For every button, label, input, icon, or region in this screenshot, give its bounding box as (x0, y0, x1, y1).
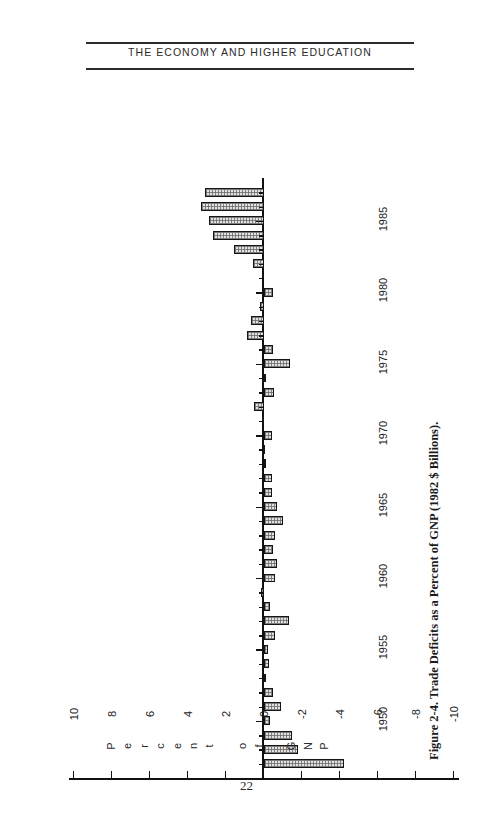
year-tick-1968 (259, 464, 264, 465)
axis-title-letter-1: e (121, 739, 133, 753)
value-label--2: -2 (296, 700, 308, 728)
value-label--10: -10 (448, 700, 460, 728)
year-label-1980: 1980 (377, 270, 389, 310)
bar-1956 (264, 631, 275, 640)
chart-canvas (0, 178, 264, 778)
year-tick-1961 (259, 564, 264, 565)
bar-1947 (264, 759, 344, 768)
value-tick-2 (301, 771, 302, 778)
year-tick-1964 (259, 521, 264, 522)
bar-1976 (264, 345, 273, 354)
axis-title-letter-6: t (203, 739, 215, 753)
value-tick-4 (339, 771, 340, 778)
year-tick-1958 (259, 607, 264, 608)
bar-1984 (213, 231, 264, 240)
year-tick-1971 (259, 421, 264, 422)
year-tick-1970 (256, 435, 264, 436)
bar-1974 (264, 374, 266, 383)
bar-1962 (264, 545, 274, 554)
year-tick-1982 (259, 264, 264, 265)
value-tick--2 (225, 771, 226, 778)
year-label-1960: 1960 (377, 556, 389, 596)
year-tick-1966 (259, 492, 264, 493)
year-tick-1975 (256, 364, 264, 365)
year-tick-1953 (259, 678, 264, 679)
axis-title-letter-12: N (302, 739, 314, 753)
running-header: THE ECONOMY AND HIGHER EDUCATION (86, 42, 414, 70)
value-label-10: 10 (68, 700, 80, 728)
bar-1965 (264, 502, 277, 511)
year-tick-1956 (259, 635, 264, 636)
year-tick-1954 (259, 664, 264, 665)
year-tick-1963 (259, 535, 264, 536)
value-tick--10 (73, 771, 74, 778)
bar-1952 (264, 688, 274, 697)
year-tick-1985 (256, 221, 264, 222)
page-number: 22 (0, 778, 493, 794)
bar-1975 (264, 359, 290, 368)
bar-1966 (264, 488, 272, 497)
bar-1961 (264, 559, 277, 568)
axis-title-letter-0: P (105, 739, 117, 753)
year-tick-1976 (259, 349, 264, 350)
value-tick-0 (263, 771, 264, 778)
axis-title-letter-2: r (138, 739, 150, 753)
bar-1967 (264, 474, 272, 483)
value-label-8: 8 (106, 700, 118, 728)
year-tick-1965 (256, 507, 264, 508)
value-label--6: -6 (372, 700, 384, 728)
axis-title-letter-11: G (285, 739, 297, 753)
bar-1954 (264, 659, 269, 668)
axis-title-letter-3: c (154, 739, 166, 753)
year-tick-1949 (259, 735, 264, 736)
bar-1987 (205, 188, 264, 197)
bar-1955 (264, 645, 268, 654)
axis-title-letter-4: e (171, 739, 183, 753)
value-tick-10 (453, 771, 454, 778)
bar-1957 (264, 616, 289, 625)
bar-1970 (264, 431, 272, 440)
bar-1964 (264, 516, 283, 525)
bar-1968 (264, 459, 266, 468)
figure-caption: Figure 2-4. Trade Deficits as a Percent … (427, 422, 442, 760)
header-rule-top (86, 42, 414, 44)
bar-1963 (264, 531, 275, 540)
value-label-0: 0 (258, 700, 270, 728)
figure-area: 19501955196019651970197519801985 1086420… (0, 80, 493, 720)
year-label-1965: 1965 (377, 485, 389, 525)
axis-title-letter-13: P (318, 739, 330, 753)
bar-1958 (264, 602, 270, 611)
year-tick-1973 (259, 392, 264, 393)
year-label-1985: 1985 (377, 199, 389, 239)
value-tick--4 (187, 771, 188, 778)
year-tick-1981 (259, 278, 264, 279)
year-tick-1984 (259, 235, 264, 236)
year-tick-1960 (256, 578, 264, 579)
value-tick--8 (111, 771, 112, 778)
year-tick-1972 (259, 407, 264, 408)
axis-title-letter-5: n (187, 739, 199, 753)
value-tick-6 (377, 771, 378, 778)
chart-plot-area (0, 178, 264, 778)
value-tick--6 (149, 771, 150, 778)
value-label-2: 2 (220, 700, 232, 728)
bar-1986 (201, 202, 264, 211)
value-label--4: -4 (334, 700, 346, 728)
year-tick-1947 (259, 764, 264, 765)
year-tick-1987 (259, 192, 264, 193)
year-tick-1967 (259, 478, 264, 479)
year-label-1955: 1955 (377, 627, 389, 667)
year-tick-1980 (256, 292, 264, 293)
year-tick-1959 (259, 592, 264, 593)
year-tick-1977 (259, 335, 264, 336)
header-rule-bottom (86, 68, 414, 70)
year-tick-1957 (259, 621, 264, 622)
year-label-1975: 1975 (377, 342, 389, 382)
year-tick-1979 (259, 307, 264, 308)
value-label-4: 4 (182, 700, 194, 728)
value-label--8: -8 (410, 700, 422, 728)
axis-title-letter-8: o (236, 739, 248, 753)
value-tick-8 (415, 771, 416, 778)
year-label-1970: 1970 (377, 413, 389, 453)
year-tick-1952 (259, 692, 264, 693)
